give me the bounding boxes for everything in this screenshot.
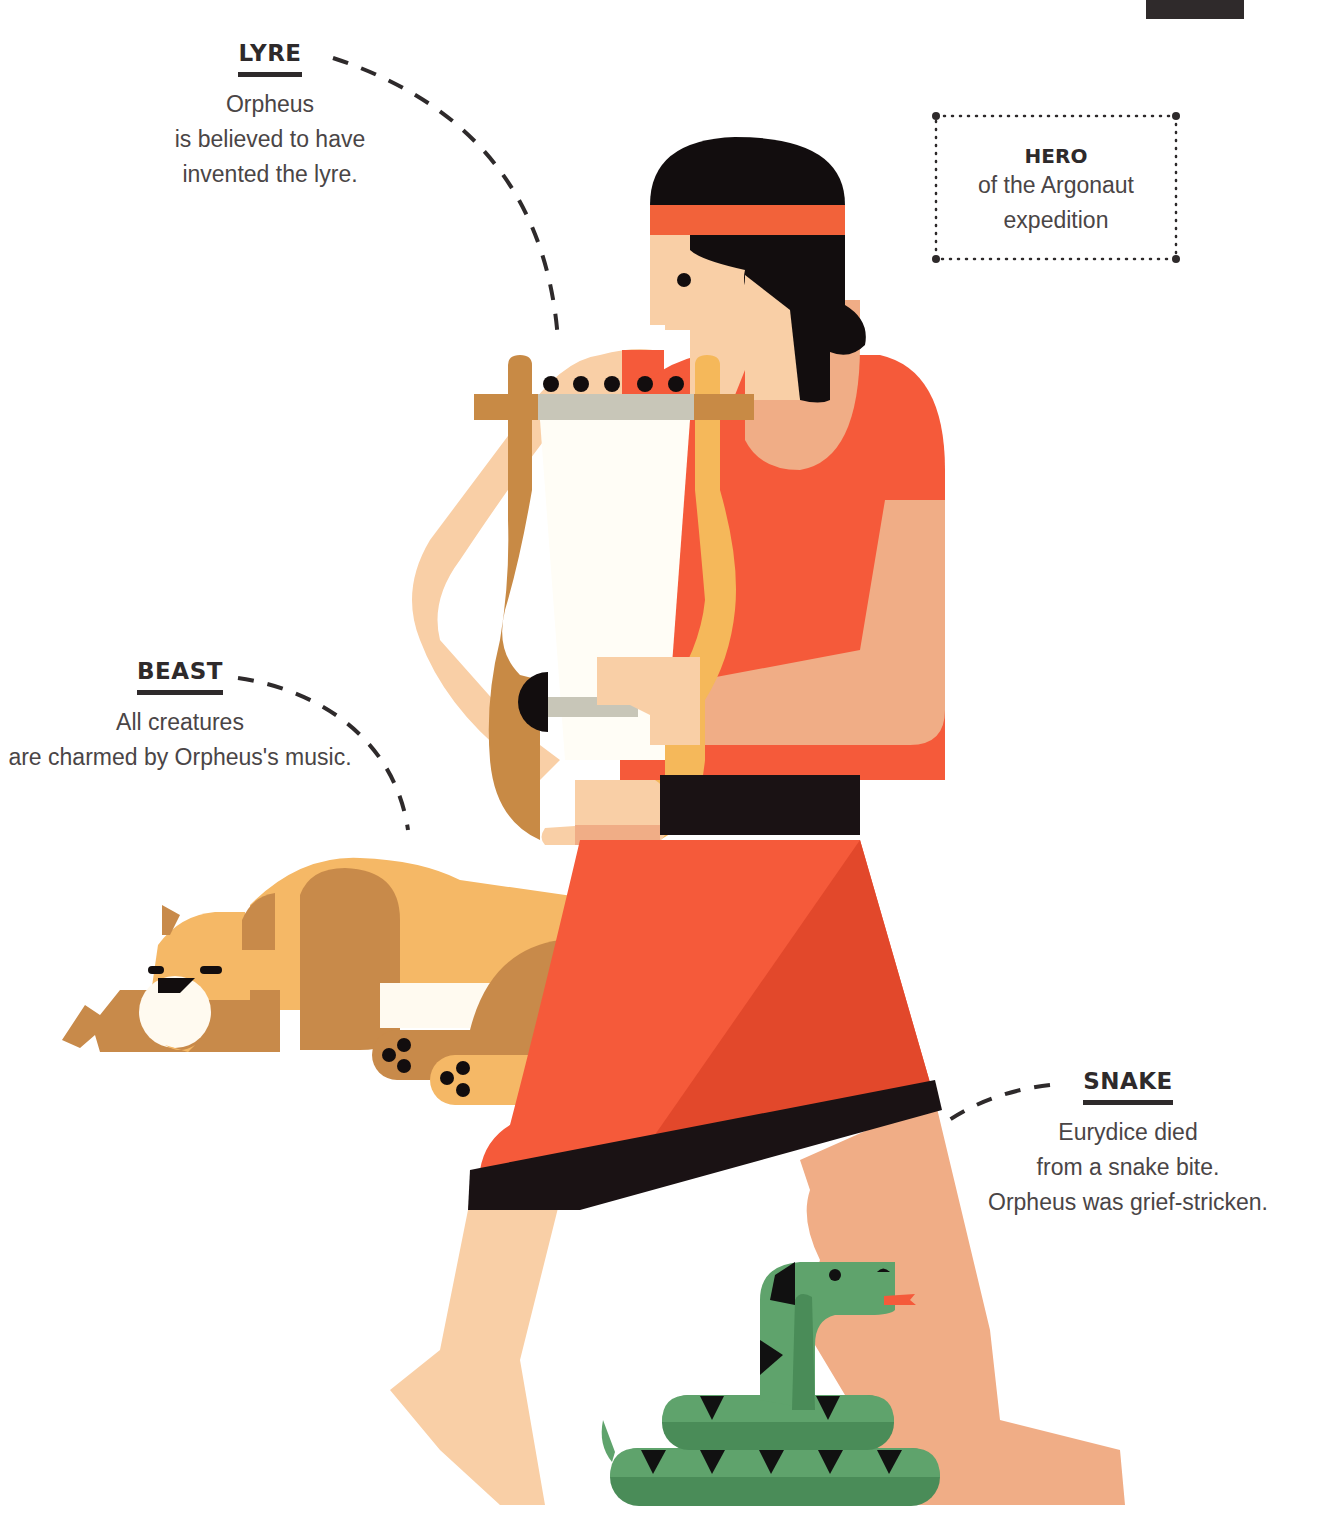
lyre-line-1: Orpheus [150,87,390,122]
eye [677,273,691,287]
lyre-callout-body: Orpheus is believed to have invented the… [150,87,390,192]
hero-callout-title: HERO [935,144,1177,168]
snake-line-3: Orpheus was grief-stricken. [968,1185,1288,1220]
beast-line-2: are charmed by Orpheus's music. [0,740,400,775]
lyre-line-3: invented the lyre. [150,157,390,192]
hero-callout-body: of the Argonaut expedition [935,168,1177,238]
beast-line-1: All creatures [0,705,400,740]
hero-line-1: of the Argonaut [935,168,1177,203]
belt [660,775,860,835]
snake-callout-title: SNAKE [1083,1068,1173,1105]
lyre-line-2: is believed to have [150,122,390,157]
snake-callout-body: Eurydice died from a snake bite. Orpheus… [968,1115,1288,1220]
lion-figure [62,858,600,1105]
hero-line-2: expedition [935,203,1177,238]
snake-line-1: Eurydice died [968,1115,1288,1150]
lyre-callout: LYRE Orpheus is believed to have invente… [150,40,390,192]
beast-callout-body: All creatures are charmed by Orpheus's m… [0,705,400,775]
lyre-callout-title: LYRE [238,40,301,77]
hero-callout: HERO of the Argonaut expedition [935,116,1177,259]
beast-callout: BEAST All creatures are charmed by Orphe… [0,658,400,775]
snake-line-2: from a snake bite. [968,1150,1288,1185]
snake-callout: SNAKE Eurydice died from a snake bite. O… [968,1068,1288,1220]
beast-callout-title: BEAST [137,658,223,695]
back-leg [390,1200,560,1505]
